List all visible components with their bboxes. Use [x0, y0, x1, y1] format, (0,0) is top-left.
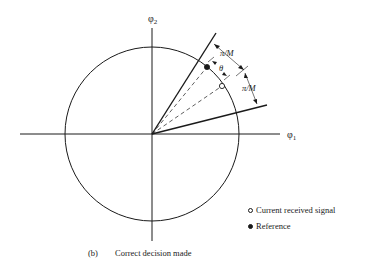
- received-ray: [152, 86, 222, 134]
- arrowhead-icon: [253, 99, 257, 104]
- lower-pi-m-label: π/M: [242, 84, 256, 93]
- legend-label-reference: Reference: [256, 222, 290, 231]
- phase-diagram: [0, 0, 366, 267]
- arrowhead-icon: [244, 73, 248, 78]
- phi2-subscript: 2: [154, 18, 158, 26]
- phi2-axis-label: φ2: [148, 14, 157, 26]
- open-circle-icon: [248, 208, 253, 213]
- reference-point: [204, 64, 209, 69]
- phi1-axis-label: φ1: [287, 130, 296, 142]
- caption-text: Correct decision made: [115, 249, 191, 258]
- reference-ray: [152, 67, 207, 134]
- arrowhead-icon: [212, 61, 217, 65]
- phi1-subscript: 1: [293, 134, 297, 142]
- caption-tag: (b): [88, 249, 98, 258]
- theta-label: θ: [219, 64, 223, 73]
- legend-label-received: Current received signal: [256, 206, 335, 215]
- legend-item-reference: Reference: [248, 222, 290, 231]
- legend-item-received: Current received signal: [248, 206, 335, 215]
- theta-tick-rx: [224, 75, 230, 80]
- filled-circle-icon: [248, 224, 253, 229]
- lower-decision-boundary: [152, 105, 267, 134]
- received-signal-point: [219, 83, 224, 88]
- upper-pi-m-label: π/M: [220, 49, 234, 58]
- upper-decision-boundary: [152, 33, 216, 134]
